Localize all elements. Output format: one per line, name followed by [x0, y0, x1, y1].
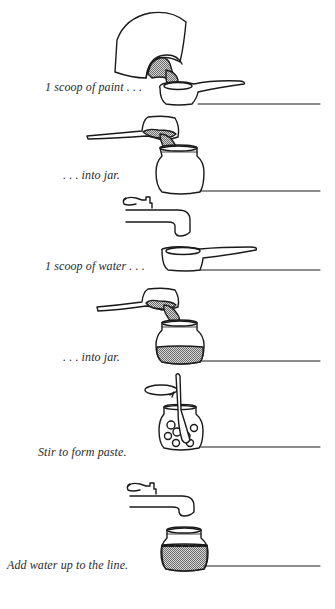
jar-with-paint-icon: [156, 320, 320, 364]
step-2-caption: . . . into jar.: [63, 168, 120, 183]
step-6-caption: Add water up to the line.: [7, 558, 128, 573]
faucet-icon: [123, 197, 190, 236]
stirring-jar-icon: [159, 374, 320, 450]
scoop-icon: [162, 247, 320, 271]
scoop-pouring-icon: [97, 288, 180, 325]
step-4-caption: . . . into jar.: [63, 350, 120, 365]
step-5-caption: Stir to form paste.: [38, 445, 127, 460]
step-3-caption: 1 scoop of water . . .: [45, 259, 145, 274]
faucet-icon: [127, 483, 194, 516]
paint-pot-icon: [115, 12, 186, 86]
jar-icon: [156, 145, 320, 194]
jar-filled-icon: [161, 527, 320, 571]
step-1-caption: 1 scoop of paint . . .: [45, 80, 142, 95]
scoop-icon: [160, 81, 320, 105]
instruction-diagram: 1 scoop of paint . . . . . . into jar. 1…: [0, 0, 335, 609]
stir-arrow-icon: [145, 385, 177, 397]
